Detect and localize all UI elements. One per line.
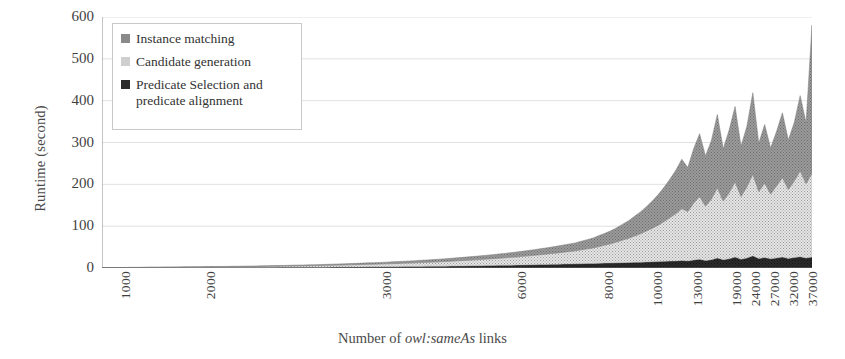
x-tick-label: 13000 (690, 271, 706, 306)
y-tick-label: 500 (48, 51, 94, 66)
chart-figure: Runtime (second) 0100200300400500600 100… (0, 0, 845, 359)
legend-item: Instance matching (121, 31, 295, 47)
x-axis-title-suffix: links (475, 330, 507, 346)
x-tick-label: 24000 (748, 271, 764, 306)
legend-item: Predicate Selection and predicate alignm… (121, 77, 295, 109)
x-tick-label: 1000 (118, 271, 134, 299)
x-tick-label: 2000 (203, 271, 219, 299)
y-tick-label: 300 (48, 135, 94, 150)
legend-item: Candidate generation (121, 54, 295, 70)
x-tick-label: 32000 (786, 271, 802, 306)
y-axis-tick-labels: 0100200300400500600 (44, 0, 94, 359)
x-tick-label: 3000 (379, 271, 395, 299)
x-axis-title-prefix: Number of (338, 330, 405, 346)
legend-swatch-predicate-selection (121, 80, 130, 89)
x-tick-label: 6000 (514, 271, 530, 299)
legend-swatch-instance-matching (121, 34, 130, 43)
y-tick-label: 600 (48, 9, 94, 24)
x-axis-tick-labels: 1000200030006000800010000130001900024000… (102, 271, 812, 331)
x-tick-label: 8000 (601, 271, 617, 299)
legend-label: Predicate Selection and predicate alignm… (136, 77, 295, 109)
y-tick-label: 100 (48, 218, 94, 233)
legend-label: Candidate generation (136, 54, 251, 70)
y-tick-label: 0 (48, 260, 94, 275)
x-tick-label: 37000 (805, 271, 821, 306)
legend-swatch-candidate-generation (121, 57, 130, 66)
chart-legend: Instance matching Candidate generation P… (112, 23, 302, 130)
x-axis-title: Number of owl:sameAs links (0, 330, 845, 347)
y-tick-label: 200 (48, 176, 94, 191)
x-tick-label: 27000 (767, 271, 783, 306)
legend-label: Instance matching (136, 31, 235, 47)
x-tick-label: 19000 (729, 271, 745, 306)
x-tick-label: 10000 (650, 271, 666, 306)
x-axis-title-italic: owl:sameAs (405, 330, 475, 346)
y-tick-label: 400 (48, 93, 94, 108)
